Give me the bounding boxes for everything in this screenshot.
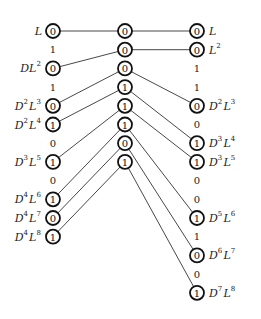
node-label: D2 L3 <box>208 98 236 113</box>
node-value: 0 <box>122 63 128 74</box>
edge-middle-right <box>125 106 197 162</box>
node-label: D4 L6 <box>14 191 42 206</box>
edge-left-middle <box>53 162 125 237</box>
middle-node: 0 <box>118 136 132 150</box>
right-node: 0 <box>190 99 204 113</box>
edge-left-middle <box>53 68 125 105</box>
edge-middle-right <box>125 143 197 255</box>
middle-node: 0 <box>118 43 132 57</box>
node-value: 0 <box>194 26 200 37</box>
gap-value: 1 <box>50 44 56 55</box>
node-value: 0 <box>50 26 56 37</box>
middle-node: 1 <box>118 80 132 94</box>
gap-value: 0 <box>194 175 200 186</box>
right-node: 0 <box>190 24 204 38</box>
node-value: 0 <box>194 250 200 261</box>
edge-middle-right <box>125 87 197 143</box>
node-label: D4 L7 <box>14 210 42 225</box>
node-value: 0 <box>50 101 56 112</box>
gap-value: 0 <box>194 269 200 280</box>
gap-value: 1 <box>194 63 200 74</box>
edge-left-middle <box>53 50 125 69</box>
node-label: D6 L7 <box>208 247 236 262</box>
gap-value: 0 <box>194 119 200 130</box>
node-label: D2 L3 <box>14 98 42 113</box>
gap-value: 0 <box>50 138 56 149</box>
node-value: 1 <box>50 194 56 205</box>
middle-node: 1 <box>118 155 132 169</box>
node-label: D4 L8 <box>14 229 42 244</box>
edge-middle-right <box>125 162 197 293</box>
right-node: 1 <box>190 155 204 169</box>
gap-value: 1 <box>194 231 200 242</box>
node-label: D3 L4 <box>208 135 236 150</box>
node-value: 0 <box>50 213 56 224</box>
node-value: 1 <box>122 101 128 112</box>
node-value: 1 <box>50 157 56 168</box>
lattice-diagram: 0L10DL2 10D2 L3 1D2 L4 01D3 L5 01D4 L6 0… <box>0 0 261 319</box>
middle-column: 00011101 <box>118 24 132 169</box>
gap-value: 1 <box>50 82 56 93</box>
node-value: 0 <box>50 63 56 74</box>
node-label: D3 L5 <box>14 154 42 169</box>
edge-middle-right <box>125 68 197 105</box>
middle-node: 1 <box>118 118 132 132</box>
node-label: D2 L4 <box>14 117 42 132</box>
node-label: L2 <box>208 42 222 57</box>
left-node: 0 <box>46 61 60 75</box>
left-node: 0 <box>46 99 60 113</box>
left-node: 0 <box>46 211 60 225</box>
node-value: 0 <box>122 138 128 149</box>
node-value: 0 <box>122 26 128 37</box>
left-node: 1 <box>46 230 60 244</box>
node-value: 1 <box>122 120 128 131</box>
middle-node: 0 <box>118 61 132 75</box>
node-label: L <box>34 25 42 38</box>
left-column: 0L10DL2 10D2 L3 1D2 L4 01D3 L5 01D4 L6 0… <box>14 24 60 244</box>
gap-value: 0 <box>194 194 200 205</box>
left-node: 1 <box>46 192 60 206</box>
right-node: 1 <box>190 286 204 300</box>
node-label: L <box>208 25 216 38</box>
left-node: 1 <box>46 155 60 169</box>
right-node: 0 <box>190 43 204 57</box>
gap-value: 1 <box>194 82 200 93</box>
node-value: 1 <box>50 120 56 131</box>
node-label: DL2 <box>19 60 42 75</box>
node-value: 1 <box>50 232 56 243</box>
middle-node: 0 <box>118 24 132 38</box>
middle-node: 1 <box>118 99 132 113</box>
node-value: 1 <box>194 138 200 149</box>
edge-left-middle <box>53 106 125 162</box>
right-node: 0 <box>190 248 204 262</box>
node-value: 1 <box>194 157 200 168</box>
left-node: 0 <box>46 24 60 38</box>
left-node: 1 <box>46 118 60 132</box>
right-node: 1 <box>190 136 204 150</box>
node-value: 0 <box>122 45 128 56</box>
node-label: D5 L6 <box>208 210 236 225</box>
node-label: D3 L5 <box>208 154 236 169</box>
node-value: 1 <box>122 82 128 93</box>
right-node: 1 <box>190 211 204 225</box>
right-column: 0L0L2 110D2 L3 01D3 L4 1D3 L5 001D5 L6 1… <box>190 24 236 300</box>
node-value: 1 <box>194 213 200 224</box>
node-value: 1 <box>194 288 200 299</box>
node-value: 1 <box>122 157 128 168</box>
node-value: 0 <box>194 101 200 112</box>
edge-left-middle <box>53 143 125 218</box>
node-label: D7 L8 <box>208 285 236 300</box>
gap-value: 0 <box>50 175 56 186</box>
edge-left-middle <box>53 87 125 124</box>
edge-left-middle <box>53 125 125 200</box>
node-value: 0 <box>194 45 200 56</box>
edge-middle-right <box>125 125 197 219</box>
